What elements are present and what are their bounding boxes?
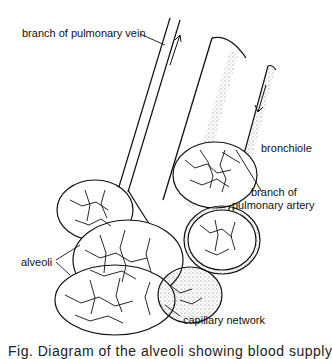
alveoli-cluster: [55, 142, 260, 335]
label-pulmonary-artery-2: pulmonary artery: [232, 199, 315, 211]
label-pulmonary-artery-1: branch of: [251, 186, 297, 198]
figure-caption: Fig. Diagram of the alveoli showing bloo…: [8, 343, 332, 359]
label-bronchiole: bronchiole: [261, 142, 312, 154]
label-pulmonary-vein: branch of pulmonary vein: [22, 27, 146, 39]
label-alveoli: alveoli: [21, 256, 52, 268]
label-capillary-network: capillary network: [183, 314, 265, 326]
